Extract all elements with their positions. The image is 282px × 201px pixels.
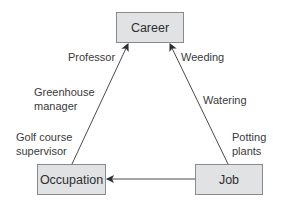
label-potting-plants-line1: Potting	[232, 131, 266, 144]
label-professor: Professor	[68, 51, 115, 64]
node-occupation-label: Occupation	[40, 173, 103, 187]
label-watering: Watering	[203, 94, 247, 107]
node-job: Job	[195, 164, 263, 195]
label-greenhouse-manager-line2: manager	[34, 100, 77, 113]
node-occupation: Occupation	[37, 164, 106, 195]
label-golf-course-supervisor-line1: Golf course	[16, 131, 72, 144]
node-career-label: Career	[131, 21, 169, 35]
label-golf-course-supervisor-line2: supervisor	[16, 145, 67, 158]
label-potting-plants-line2: plants	[232, 145, 261, 158]
label-greenhouse-manager-line1: Greenhouse	[34, 86, 95, 99]
node-job-label: Job	[219, 173, 239, 187]
label-weeding: Weeding	[181, 51, 224, 64]
node-career: Career	[116, 12, 184, 43]
